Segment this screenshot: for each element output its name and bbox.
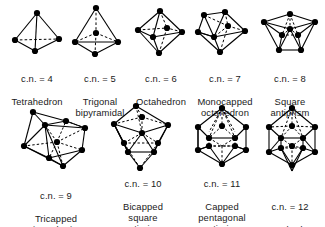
bicapped-square-antiprism-svg [106,100,180,174]
coordination-geometry-figure: c.n. = 4 Tetrahedron [0,0,325,227]
name-label-bicapped-square-antiprism: Bicapped square antiprism [110,201,176,227]
polyhedron-tetrahedron [6,6,68,58]
trigonal-bipyramidal-svg [68,2,126,60]
name-label-capped-pentagonal-antiprism: Capped pentagonal antiprism [186,201,258,227]
cn-label-capped-pentagonal-antiprism: c.n. = 11 [186,178,258,189]
polyhedron-icosahedron [261,102,323,178]
name-label-icosahedron: Icosahedron [256,224,324,227]
name-label-tricapped-trigonal-prism: Tricapped trigonal prism [4,213,108,227]
monocapped-octahedron-svg [192,4,254,60]
cn-label-monocapped-octahedron: c.n. = 7 [188,73,262,84]
cn-label-icosahedron: c.n. = 12 [256,201,324,212]
icosahedron-svg [261,102,323,178]
octahedron-svg [132,6,190,60]
caption-capped-pentagonal-antiprism: c.n. = 11 Capped pentagonal antiprism [186,167,258,227]
cn-label-trigonal-bipyramidal: c.n. = 5 [70,73,130,84]
polyhedron-tricapped-trigonal-prism [16,104,94,176]
polyhedron-trigonal-bipyramidal [68,2,126,60]
vertex-dots [72,5,121,57]
cn-label-tricapped-trigonal-prism: c.n. = 9 [4,190,108,201]
polyhedron-monocapped-octahedron [192,4,254,60]
tetrahedron-svg [6,6,68,58]
cn-label-tetrahedron: c.n. = 4 [0,73,74,84]
polyhedron-capped-pentagonal-antiprism [189,102,255,172]
polyhedron-bicapped-square-antiprism [106,100,180,174]
square-antiprism-svg [258,4,322,60]
caption-icosahedron: c.n. = 12 Icosahedron [256,190,324,227]
polyhedron-square-antiprism [258,4,322,60]
tricapped-trigonal-prism-svg [16,104,94,176]
caption-bicapped-square-antiprism: c.n. = 10 Bicapped square antiprism [110,167,176,227]
cn-label-octahedron: c.n. = 6 [126,73,196,84]
cn-label-bicapped-square-antiprism: c.n. = 10 [110,178,176,189]
cn-label-square-antiprism: c.n. = 8 [258,73,322,84]
polyhedron-octahedron [132,6,190,60]
caption-tricapped-trigonal-prism: c.n. = 9 Tricapped trigonal prism [4,179,108,227]
capped-pentagonal-antiprism-svg [189,102,255,172]
